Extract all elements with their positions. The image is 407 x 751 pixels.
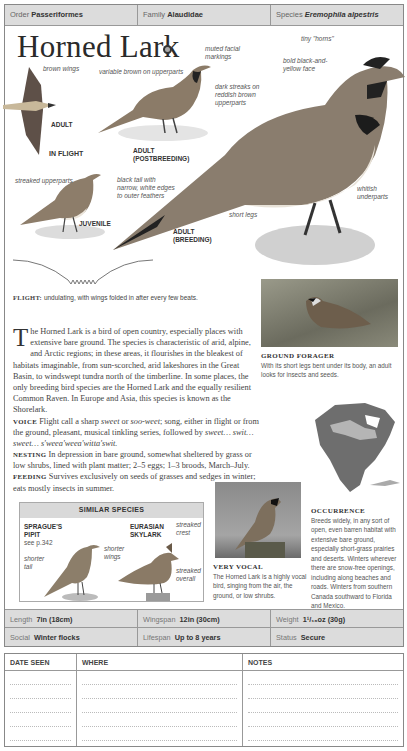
ground-forager-text: With its short legs bent under its body,… — [261, 361, 401, 380]
ground-forager-title: GROUND FORAGER — [261, 352, 334, 360]
where-field[interactable] — [77, 671, 243, 746]
very-vocal-photo — [215, 482, 301, 558]
voice-text: or — [119, 417, 130, 426]
flight-bird-illustration — [1, 65, 61, 160]
status-value: Secure — [301, 633, 325, 642]
label-adult-breeding: ADULT (BREEDING) — [173, 228, 212, 244]
voice-call: sweet — [101, 417, 119, 426]
nesting-label: NESTING — [13, 451, 46, 458]
voice-text: Flight call a sharp — [39, 417, 101, 426]
stats-row-1: Length 7in (18cm) Wingspan 12in (30cm) W… — [5, 610, 403, 628]
annotation-short-legs: short legs — [229, 211, 257, 219]
order-value: Passeriformes — [31, 10, 83, 19]
stats-table: Length 7in (18cm) Wingspan 12in (30cm) W… — [5, 609, 403, 646]
label-adult-2: ADULT — [173, 228, 212, 236]
stats-row-2: Social Winter flocks Lifespan Up to 8 ye… — [5, 628, 403, 646]
family-value: Alaudidae — [167, 10, 203, 19]
very-vocal-text: The Horned Lark is a highly vocal bird, … — [213, 572, 313, 600]
lifespan-cell: Lifespan Up to 8 years — [138, 628, 271, 646]
sighting-log: DATE SEEN WHERE NOTES — [4, 653, 404, 747]
annotation-streaked-upperparts: streaked upperparts — [15, 177, 73, 185]
occurrence-title: OCCURRENCE — [311, 507, 365, 515]
species-page: Order Passeriformes Family Alaudidae Spe… — [4, 4, 404, 647]
log-body — [5, 671, 403, 746]
wingspan-label: Wingspan — [143, 615, 175, 624]
annotation-dark-streaks: dark streaks on reddish brown upperparts — [215, 83, 277, 106]
annotation-black-tail: black tail with narrow, white edges to o… — [117, 176, 177, 199]
label-adult-flight: ADULT — [51, 121, 73, 129]
notes-field[interactable] — [243, 671, 403, 746]
species-2-name-line2: SKYLARK — [130, 531, 164, 539]
ground-forager-photo — [261, 279, 398, 347]
annotation-streaked-crest: streaked crest — [176, 521, 204, 537]
annotation-whitish-underparts: whitish underparts — [357, 185, 401, 201]
annotation-brown-wings: brown wings — [43, 65, 79, 73]
label-breeding: (BREEDING) — [173, 236, 212, 244]
length-label: Length — [10, 615, 32, 624]
label-juvenile: JUVENILE — [79, 220, 111, 228]
intro-paragraph: he Horned Lark is a bird of open country… — [13, 327, 251, 414]
order-label: Order — [10, 10, 29, 19]
weight-cell: Weight 1¹/₁₆oz (30g) — [271, 610, 403, 627]
date-seen-header: DATE SEEN — [5, 654, 77, 670]
similar-species-2-name: EURASIAN SKYLARK — [130, 523, 164, 539]
singing-lark-icon — [215, 482, 301, 558]
range-map — [305, 400, 405, 495]
weight-label: Weight — [276, 615, 299, 624]
order-cell: Order Passeriformes — [5, 5, 138, 25]
description-text: The Horned Lark is a bird of open countr… — [13, 326, 261, 494]
status-cell: Status Secure — [271, 628, 403, 646]
voice-paragraph: VOICE Flight call a sharp sweet or soo-w… — [13, 416, 261, 450]
where-header: WHERE — [77, 654, 243, 670]
ground-forager-bird-icon — [261, 279, 398, 347]
feeding-label: FEEDING — [13, 473, 47, 480]
flight-text: undulating, with wings folded in after e… — [44, 294, 198, 301]
wingspan-cell: Wingspan 12in (30cm) — [138, 610, 271, 627]
species-value: Eremophila alpestris — [305, 10, 379, 19]
length-value: 7in (18cm) — [36, 615, 72, 624]
flight-label: FLIGHT: — [13, 294, 42, 301]
log-header: DATE SEEN WHERE NOTES — [5, 654, 403, 671]
similar-species-box: SIMILAR SPECIES SPRAGUE'S PIPIT see p.34… — [19, 502, 204, 602]
flight-pattern-icon — [13, 258, 153, 293]
annotation-black-yellow-face: bold black-and-yellow face — [283, 57, 343, 73]
status-label: Status — [276, 633, 297, 642]
label-in-flight: IN FLIGHT — [49, 150, 83, 158]
similar-species-heading: SIMILAR SPECIES — [20, 503, 203, 518]
eurasian-skylark-illustration — [116, 541, 186, 603]
lifespan-label: Lifespan — [143, 633, 171, 642]
taxonomy-bar: Order Passeriformes Family Alaudidae Spe… — [5, 5, 403, 26]
social-label: Social — [10, 633, 30, 642]
occurrence-text: Breeds widely, in any sort of open, even… — [311, 516, 403, 610]
social-cell: Social Winter flocks — [5, 628, 138, 646]
juvenile-bird-illustration — [15, 160, 105, 240]
spragues-pipit-illustration — [42, 527, 102, 602]
family-label: Family — [143, 10, 165, 19]
wingspan-value: 12in (30cm) — [180, 615, 220, 624]
weight-value: 1¹/₁₆oz (30g) — [303, 615, 345, 624]
very-vocal-title: VERY VOCAL — [213, 563, 263, 571]
length-cell: Length 7in (18cm) — [5, 610, 138, 627]
species-2-name-line1: EURASIAN — [130, 523, 164, 531]
family-cell: Family Alaudidae — [138, 5, 271, 25]
nesting-paragraph: NESTING In depression in bare ground, so… — [13, 449, 261, 471]
flight-caption: FLIGHT: undulating, with wings folded in… — [13, 293, 213, 303]
breeding-bird-illustration — [105, 45, 405, 265]
species-label: Species — [276, 10, 303, 19]
voice-label: VOICE — [13, 418, 37, 425]
notes-header: NOTES — [243, 654, 403, 670]
voice-call: soo-weet — [131, 417, 161, 426]
drop-cap: T — [13, 327, 28, 350]
annotation-tiny-horns: tiny "horns" — [301, 35, 334, 43]
nesting-text: In depression in bare ground, somewhat s… — [13, 450, 252, 470]
lifespan-value: Up to 8 years — [175, 633, 221, 642]
species-cell: Species Eremophila alpestris — [271, 5, 403, 25]
date-seen-field[interactable] — [5, 671, 77, 746]
social-value: Winter flocks — [34, 633, 80, 642]
